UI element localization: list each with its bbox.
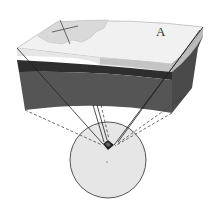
diagram-stage: A: [0, 0, 218, 214]
globe: [70, 122, 146, 198]
mantle-section: [19, 72, 172, 113]
globe-center: [106, 161, 108, 163]
crust-diagram: [0, 0, 218, 214]
top-surface: [17, 21, 203, 64]
label-a: A: [156, 24, 165, 40]
